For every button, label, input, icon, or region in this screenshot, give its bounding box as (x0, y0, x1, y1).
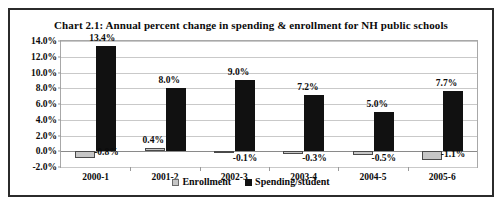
x-axis-tick-mark (200, 167, 201, 171)
y-axis-tick-mark (58, 119, 61, 120)
data-label-spending: 7.2% (297, 82, 318, 92)
y-axis-label: 8.0% (36, 83, 57, 93)
y-axis-label: -2.0% (32, 162, 57, 172)
data-label-enrollment: -0.5% (372, 153, 397, 163)
y-axis-tick-mark (58, 135, 61, 136)
y-axis-label: 0.0% (36, 146, 57, 156)
y-axis-label: 10.0% (31, 68, 57, 78)
bar-enrollment (145, 148, 165, 151)
gridline (61, 104, 477, 105)
y-axis-label: 6.0% (36, 99, 57, 109)
legend-swatch-enrollment (172, 179, 179, 186)
plot-area: 14.0%12.0%10.0%8.0%6.0%4.0%2.0%0.0%-2.0%… (60, 40, 478, 168)
data-label-spending: 13.4% (89, 33, 115, 43)
gridline (61, 120, 477, 121)
y-axis-tick-mark (58, 72, 61, 73)
zero-line (61, 151, 477, 152)
bar-enrollment (353, 151, 373, 155)
data-label-enrollment: -1.1% (441, 149, 466, 159)
bar-spending-per-student (166, 88, 186, 151)
bar-enrollment (283, 151, 303, 153)
bar-spending-per-student (304, 95, 324, 152)
chart-frame: Chart 2.1: Annual percent change in spen… (8, 8, 494, 197)
data-label-spending: 9.0% (228, 67, 249, 77)
data-label-enrollment: -0.3% (302, 153, 327, 163)
bar-enrollment (75, 151, 95, 157)
y-axis-tick-mark (58, 104, 61, 105)
y-axis-tick-mark (58, 56, 61, 57)
gridline (61, 41, 477, 42)
legend-label-spending: Spending/student (255, 176, 329, 187)
y-axis-tick-mark (58, 151, 61, 152)
x-axis-tick-mark (130, 167, 131, 171)
chart-legend: Enrollment Spending/student (10, 176, 492, 187)
bar-spending-per-student (96, 46, 116, 152)
gridline (61, 136, 477, 137)
bar-enrollment (422, 151, 442, 160)
gridline (61, 73, 477, 74)
x-axis-tick-mark (408, 167, 409, 171)
data-label-spending: 5.0% (367, 99, 388, 109)
gridline (61, 57, 477, 58)
data-label-enrollment: -0.8% (94, 147, 119, 157)
y-axis-label: 12.0% (31, 52, 57, 62)
chart-title: Chart 2.1: Annual percent change in spen… (10, 19, 492, 31)
legend-label-enrollment: Enrollment (182, 176, 231, 187)
data-label-spending: 7.7% (436, 78, 457, 88)
data-label-spending: 8.0% (159, 75, 180, 85)
x-axis-tick-mark (269, 167, 270, 171)
x-axis-tick-mark (338, 167, 339, 171)
data-label-enrollment: -0.1% (233, 153, 258, 163)
bar-spending-per-student (443, 91, 463, 152)
y-axis-tick-mark (58, 167, 61, 168)
gridline (61, 88, 477, 89)
y-axis-tick-mark (58, 88, 61, 89)
y-axis-label: 2.0% (36, 131, 57, 141)
legend-item-spending: Spending/student (245, 176, 329, 187)
data-label-enrollment: 0.4% (143, 135, 164, 145)
bar-spending-per-student (235, 80, 255, 151)
bar-enrollment (214, 151, 234, 153)
y-axis-tick-mark (58, 41, 61, 42)
y-axis-label: 14.0% (31, 36, 57, 46)
legend-swatch-spending (245, 179, 252, 186)
legend-item-enrollment: Enrollment (172, 176, 231, 187)
bar-spending-per-student (374, 112, 394, 151)
y-axis-label: 4.0% (36, 115, 57, 125)
